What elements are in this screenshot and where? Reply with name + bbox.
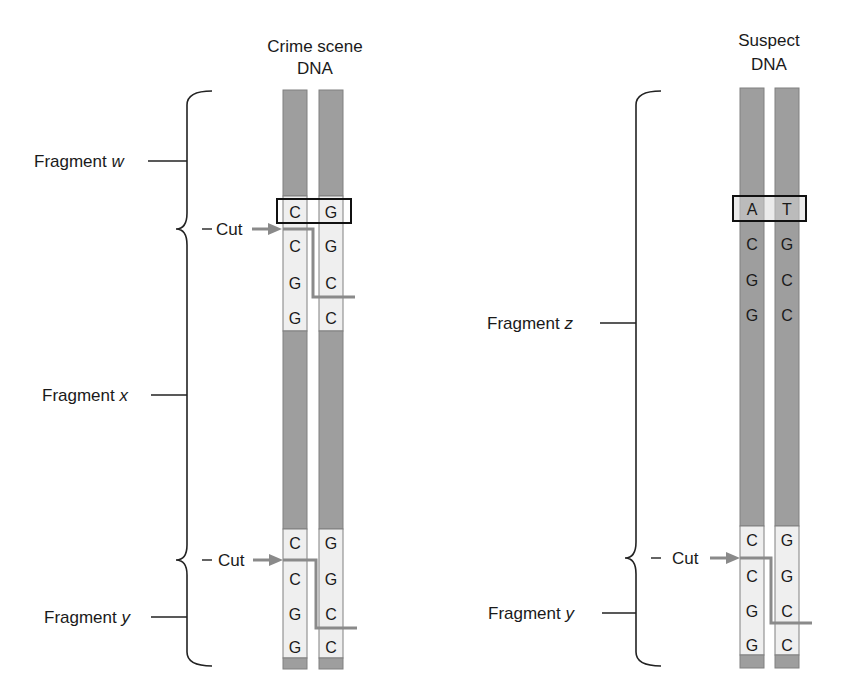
label-fragment-y: Fragment y: [44, 608, 131, 627]
brace-fragment-xy: [176, 245, 212, 666]
brace-fragment-w: [176, 91, 212, 245]
crime-base: G: [289, 275, 301, 292]
crime-base: G: [289, 310, 301, 327]
suspect-base: G: [746, 637, 758, 654]
label-cut-2: Cut: [218, 551, 245, 570]
crime-base: C: [289, 238, 301, 255]
suspect-base: G: [781, 236, 793, 253]
crime-site-left: C: [289, 204, 301, 221]
label-fragment-w: Fragment w: [34, 152, 125, 171]
crime-cut2-arrow-icon: [269, 554, 283, 566]
crime-base: C: [289, 535, 301, 552]
crime-base: C: [325, 275, 337, 292]
suspect-base: G: [746, 603, 758, 620]
suspect-base: G: [781, 568, 793, 585]
crime-title-line2: DNA: [297, 59, 334, 78]
crime-scene-panel: Crime scene DNA C G C G G G C C C: [34, 37, 363, 669]
brace-fragment-zy: [625, 91, 661, 666]
suspect-base: C: [746, 236, 758, 253]
label-fragment-z: Fragment z: [487, 314, 573, 333]
suspect-base: C: [746, 568, 758, 585]
suspect-base: C: [781, 272, 793, 289]
label-fragment-x: Fragment x: [42, 386, 128, 405]
suspect-base: C: [781, 603, 793, 620]
suspect-base: C: [781, 307, 793, 324]
label-suspect-cut: Cut: [672, 549, 699, 568]
label-cut-1: Cut: [216, 220, 243, 239]
crime-base: G: [325, 571, 337, 588]
suspect-panel: Suspect DNA A T C G G G C C C C G G G G …: [487, 31, 812, 668]
crime-title-line1: Crime scene: [267, 37, 362, 56]
crime-base: G: [289, 639, 301, 656]
suspect-base: C: [746, 532, 758, 549]
crime-base: G: [325, 535, 337, 552]
label-suspect-fragment-y: Fragment y: [488, 604, 575, 623]
suspect-base: C: [781, 637, 793, 654]
suspect-base: G: [746, 272, 758, 289]
suspect-site-fill: [733, 196, 806, 221]
dna-fingerprint-diagram: Crime scene DNA C G C G G G C C C: [0, 0, 847, 696]
suspect-title-line2: DNA: [751, 55, 788, 74]
crime-base: C: [289, 571, 301, 588]
crime-base: C: [325, 606, 337, 623]
crime-base: G: [289, 606, 301, 623]
suspect-site-right: T: [782, 201, 792, 218]
suspect-base: G: [781, 532, 793, 549]
crime-base: G: [325, 238, 337, 255]
suspect-title-line1: Suspect: [738, 31, 800, 50]
suspect-cut-arrow-icon: [726, 552, 740, 564]
suspect-site-left: A: [747, 201, 758, 218]
suspect-base: G: [746, 307, 758, 324]
crime-base: C: [325, 310, 337, 327]
crime-base: C: [325, 639, 337, 656]
crime-site-right: G: [325, 204, 337, 221]
crime-cut1-arrow-icon: [268, 223, 282, 235]
